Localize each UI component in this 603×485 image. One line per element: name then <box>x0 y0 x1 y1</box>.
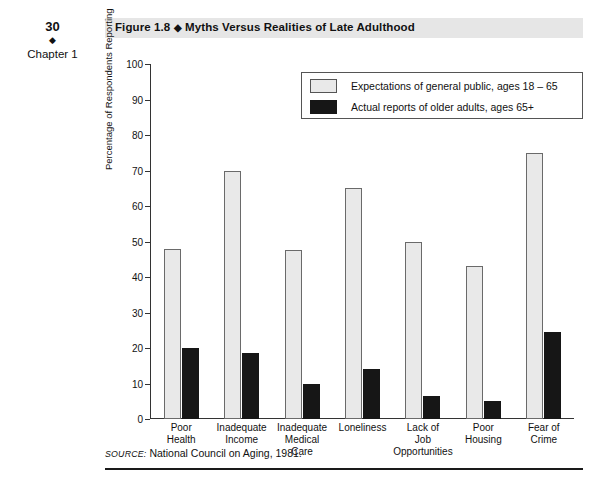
source-keyword: SOURCE: <box>105 449 146 459</box>
y-tick-label: 30 <box>132 307 143 318</box>
y-axis-tick-labels: 0102030405060708090100 <box>117 52 143 422</box>
y-tick-label: 70 <box>132 165 143 176</box>
bar-actual <box>303 384 320 420</box>
y-tick-label: 100 <box>126 59 143 70</box>
chart-legend: Expectations of general public, ages 18 … <box>301 72 583 119</box>
bar-expectations <box>405 242 422 420</box>
bar-actual <box>484 401 501 419</box>
figure-source: SOURCE: National Council on Aging, 1981. <box>105 447 302 459</box>
bottom-rule <box>105 468 583 470</box>
bar-expectations <box>224 171 241 420</box>
bar-actual <box>363 369 380 419</box>
y-tick-label: 60 <box>132 201 143 212</box>
legend-swatch-dark <box>310 100 337 114</box>
y-tick-label: 50 <box>132 236 143 247</box>
bar-expectations <box>285 250 302 419</box>
diamond-icon: ◆ <box>174 22 182 33</box>
bar-chart: Percentage of Respondents Reporting 0102… <box>105 52 583 437</box>
x-tick-label: Fear ofCrime <box>514 422 574 446</box>
x-tick-label: PoorHousing <box>453 422 513 446</box>
y-tick-label: 20 <box>132 343 143 354</box>
y-axis-label: Percentage of Respondents Reporting <box>103 10 114 170</box>
x-tick-label: Lack ofJobOpportunities <box>393 422 453 458</box>
figure-number: Figure 1.8 <box>115 21 170 33</box>
bar-group <box>164 64 199 419</box>
bar-actual <box>182 348 199 419</box>
page-margin-column: 30 ◆ Chapter 1 <box>0 20 105 62</box>
bar-expectations <box>345 188 362 419</box>
figure-title-text: Myths Versus Realities of Late Adulthood <box>185 21 415 33</box>
x-tick-label: PoorHealth <box>151 422 211 446</box>
source-text: National Council on Aging, 1981. <box>149 447 301 459</box>
x-tick-label: InadequateIncome <box>211 422 271 446</box>
figure-title: Figure 1.8 ◆ Myths Versus Realities of L… <box>115 21 415 33</box>
y-tick-label: 90 <box>132 94 143 105</box>
bar-actual <box>423 396 440 419</box>
y-tick-label: 10 <box>132 378 143 389</box>
legend-label-expectations: Expectations of general public, ages 18 … <box>351 80 558 92</box>
page-number: 30 <box>0 20 105 34</box>
y-tick-label: 80 <box>132 130 143 141</box>
y-tick-label: 40 <box>132 272 143 283</box>
figure-block: Figure 1.8 ◆ Myths Versus Realities of L… <box>105 18 583 468</box>
bar-group <box>224 64 259 419</box>
bar-expectations <box>164 249 181 419</box>
legend-label-actual: Actual reports of older adults, ages 65+ <box>351 101 534 113</box>
chapter-label: Chapter 1 <box>0 47 105 62</box>
y-tick-label: 0 <box>137 414 143 425</box>
bar-expectations <box>466 266 483 419</box>
legend-swatch-light <box>310 79 337 93</box>
diamond-icon: ◆ <box>0 34 105 47</box>
bar-actual <box>544 332 561 419</box>
x-tick-label: Loneliness <box>332 422 392 434</box>
bar-expectations <box>526 153 543 419</box>
bar-actual <box>242 353 259 419</box>
